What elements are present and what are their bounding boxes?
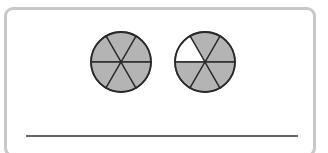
fraction-circle-circle-1 [91,32,151,92]
fraction-circles-group [91,32,235,92]
fraction-figures [0,0,328,153]
fraction-circle-circle-2 [175,32,235,92]
